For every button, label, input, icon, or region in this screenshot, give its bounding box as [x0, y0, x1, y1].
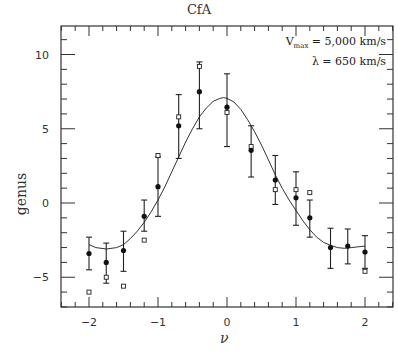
filled-circle-marker — [307, 215, 312, 220]
filled-circle-marker — [142, 214, 147, 219]
filled-circle-marker — [249, 148, 254, 153]
filled-circle-marker — [104, 260, 109, 265]
y-tick-label: −5 — [33, 271, 49, 284]
filled-circle-marker — [176, 123, 181, 128]
y-axis-label: genus — [13, 169, 29, 219]
open-square-marker — [156, 153, 160, 157]
open-square-marker — [122, 284, 126, 288]
x-tick-label: 2 — [362, 316, 369, 329]
filled-circle-marker — [362, 249, 367, 254]
parameter-annotation: Vmax = 5,000 km/s λ = 650 km/s — [286, 34, 386, 69]
filled-circle-marker — [328, 245, 333, 250]
x-tick-label: −1 — [150, 316, 166, 329]
open-square-marker — [142, 238, 146, 242]
lambda-annotation: λ = 650 km/s — [286, 54, 386, 69]
vmax-annotation: Vmax = 5,000 km/s — [286, 34, 386, 54]
y-tick-label: 0 — [42, 197, 49, 210]
filled-circle-marker — [86, 251, 91, 256]
open-square-marker — [87, 290, 91, 294]
x-axis-label: ν — [220, 330, 229, 346]
open-square-marker — [104, 275, 108, 279]
filled-circle-marker — [155, 184, 160, 189]
filled-circle-marker — [293, 195, 298, 200]
open-square-marker — [294, 188, 298, 192]
filled-circle-marker — [345, 243, 350, 248]
x-tick-label: 0 — [224, 316, 231, 329]
open-square-marker — [197, 64, 201, 68]
x-tick-label: 1 — [293, 316, 300, 329]
open-square-marker — [225, 110, 229, 114]
open-square-marker — [363, 269, 367, 273]
filled-circle-marker — [121, 248, 126, 253]
open-square-marker — [273, 188, 277, 192]
x-tick-label: −2 — [81, 316, 97, 329]
open-square-marker — [308, 191, 312, 195]
open-square-marker — [177, 115, 181, 119]
y-tick-label: 5 — [42, 123, 49, 136]
filled-circle-marker — [224, 105, 229, 110]
y-tick-label: 10 — [35, 49, 49, 62]
filled-circle-marker — [197, 89, 202, 94]
filled-circle-marker — [273, 177, 278, 182]
